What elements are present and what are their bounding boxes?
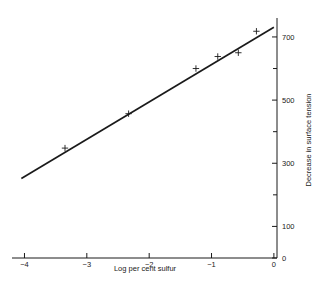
x-tick-label: −4: [20, 260, 29, 269]
y-tick-label: 0: [282, 254, 286, 263]
y-axis-title: Decrease in surface tension: [304, 94, 313, 187]
y-tick-label: 300: [282, 159, 295, 168]
x-tick-label: −3: [83, 260, 92, 269]
data-point-marker: [193, 65, 199, 71]
y-axis-ticks: 0100300500700: [272, 33, 295, 263]
y-tick-label: 100: [282, 222, 295, 231]
y-tick-label: 700: [282, 33, 295, 42]
data-point-marker: [253, 28, 259, 34]
scatter-plot: −4−3−2−10 0100300500700 Log per cent sul…: [0, 0, 324, 290]
fit-line: [21, 27, 274, 178]
x-tick-label: 0: [272, 260, 276, 269]
x-tick-label: −1: [207, 260, 216, 269]
data-point-group: [62, 28, 260, 151]
figure-container: −4−3−2−10 0100300500700 Log per cent sul…: [0, 0, 324, 290]
x-axis-title: Log per cent sulfur: [114, 264, 177, 273]
y-tick-label: 500: [282, 96, 295, 105]
